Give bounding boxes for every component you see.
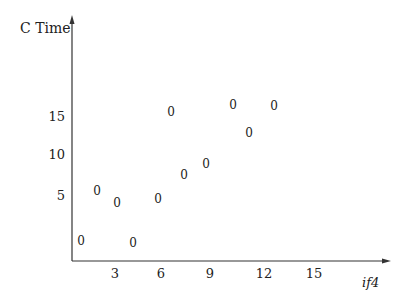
y-tick-label: 5	[35, 189, 65, 202]
data-point-marker: 0	[227, 99, 239, 111]
x-axis-arrow-icon	[382, 259, 391, 264]
data-point-marker: 0	[127, 237, 139, 249]
data-point-marker: 0	[165, 106, 177, 118]
data-point-marker: 0	[75, 235, 87, 247]
data-point-marker: 0	[111, 197, 123, 209]
data-point-marker: 0	[152, 193, 164, 205]
y-axis-label: C Time	[20, 21, 71, 35]
data-point-marker: 0	[91, 185, 103, 197]
y-tick-label: 10	[35, 148, 65, 161]
x-axis-label: if4	[362, 276, 379, 289]
data-point-marker: 0	[243, 127, 255, 139]
data-point-marker: 0	[268, 100, 280, 112]
x-tick-label: 12	[249, 267, 279, 280]
x-tick-label: 9	[195, 267, 225, 280]
data-point-marker: 0	[178, 169, 190, 181]
data-point-marker: 0	[200, 158, 212, 170]
x-tick-label: 3	[100, 267, 130, 280]
x-tick-label: 15	[299, 267, 329, 280]
scatter-chart: C Time if4 15105 3691215 00000000000	[0, 0, 411, 302]
y-tick-label: 15	[35, 110, 65, 123]
x-tick-label: 6	[146, 267, 176, 280]
